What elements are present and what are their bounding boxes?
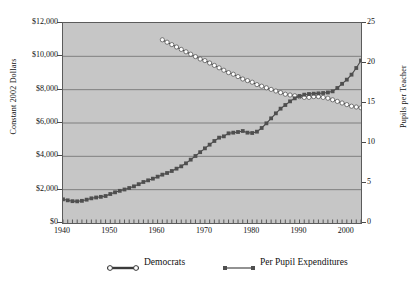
y-axis-right-tick-label: 5 — [367, 177, 397, 186]
y-axis-left-tick-label: $8,000 — [2, 84, 58, 93]
legend-item-per-pupil-expenditures: Per Pupil Expenditures — [222, 262, 256, 276]
x-axis-tick-label: 1980 — [231, 226, 271, 235]
y-axis-right-tick-label: 20 — [367, 57, 397, 66]
y-axis-right-tick-label: 15 — [367, 97, 397, 106]
legend-label-democrats: Democrats — [144, 257, 185, 267]
chart-figure: Constant 2002 Dollars Pupils per Teacher… — [0, 0, 416, 290]
legend-label-per-pupil-expenditures: Per Pupil Expenditures — [260, 257, 348, 267]
legend-swatch-democrats — [106, 262, 140, 274]
x-axis-tick-label: 1940 — [42, 226, 82, 235]
x-axis-tick-label: 1960 — [137, 226, 177, 235]
legend-swatch-per-pupil-expenditures — [222, 262, 256, 274]
y-axis-left-tick-label: $6,000 — [2, 117, 58, 126]
plot-canvas — [63, 23, 361, 223]
x-axis-tick-label: 1970 — [184, 226, 224, 235]
y-axis-right-tick-label: 0 — [367, 217, 397, 226]
x-axis-tick-label: 1950 — [89, 226, 129, 235]
y-axis-left-tick-label: $10,000 — [2, 50, 58, 59]
y-axis-right-tick-label: 10 — [367, 137, 397, 146]
y-axis-left-tick-label: $0 — [2, 217, 58, 226]
y-axis-left-tick-label: $4,000 — [2, 150, 58, 159]
plot-area — [62, 22, 362, 224]
x-axis-tick-label: 1990 — [279, 226, 319, 235]
y-axis-left-tick-label: $12,000 — [2, 17, 58, 26]
y-axis-left-tick-label: $2,000 — [2, 184, 58, 193]
legend-item-democrats: Democrats — [106, 262, 140, 276]
x-axis-tick-label: 2000 — [326, 226, 366, 235]
y-axis-right-title: Pupils per Teacher — [399, 42, 408, 152]
y-axis-right-tick-label: 25 — [367, 17, 397, 26]
chart-legend: Democrats Per Pupil Expenditures — [0, 262, 416, 282]
